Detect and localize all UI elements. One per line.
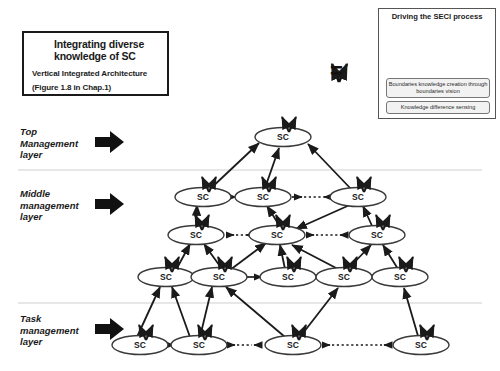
sc-node-label: SC: [287, 340, 299, 350]
edge-n2-1-n1-1: [209, 143, 259, 190]
right-block-arrow-icon-task: [95, 318, 124, 340]
sc-node-label: SC: [197, 192, 209, 202]
equivalence-equals-sign: =: [330, 58, 343, 84]
edge-n2-3-n1-1: [308, 144, 352, 190]
edge-n5-4-n4-5: [404, 288, 418, 336]
sc-node-label: SC: [271, 230, 283, 240]
sc-nodes: [112, 128, 449, 355]
sc-node-label: SC: [134, 340, 146, 350]
legend-subtitle: Vertical Integrated Architecture: [32, 69, 147, 78]
edge-n4-4-n3-3: [348, 245, 371, 269]
layer-label-top: Top Management layer: [20, 126, 78, 161]
sc-node-label: SC: [277, 132, 289, 142]
seci-process-box: Driving the SECI process Boundaries know…: [378, 8, 496, 119]
sc-node-label: SC: [160, 272, 172, 282]
edge-n2-2-n1-1: [265, 148, 279, 188]
edge-n2-3-n3-2: [296, 204, 352, 229]
edge-n4-2-n3-2: [230, 243, 266, 270]
legend-line2: knowledge of SC: [54, 50, 136, 62]
edge-n5-3-n4-2: [226, 287, 285, 337]
seci-box-sensing: Knowledge difference sensing: [386, 101, 490, 114]
right-block-arrow-icon-top: [95, 131, 124, 153]
edge-n3-2-n2-2: [267, 206, 281, 228]
sc-node-label: SC: [190, 230, 202, 240]
sc-node-label: SC: [282, 272, 294, 282]
right-block-arrow-icon-middle: [95, 193, 124, 215]
layer-arrows: [95, 131, 124, 340]
sc-node-label: SC: [415, 340, 427, 350]
edge-n4-4-n3-2: [292, 245, 338, 269]
sc-node-label: SC: [394, 272, 406, 282]
edge-n5-2-n4-1: [172, 287, 190, 337]
seci-title: Driving the SECI process: [379, 12, 495, 21]
sc-node-label: SC: [371, 230, 383, 240]
edge-n4-2-n3-1: [204, 244, 222, 269]
sc-node-label: SC: [352, 192, 364, 202]
sc-node-label: SC: [193, 340, 205, 350]
diagram-canvas: Integrating diverse knowledge of SC Vert…: [0, 0, 500, 371]
sc-node-label: SC: [213, 272, 225, 282]
edge-n5-3-n4-4: [300, 288, 338, 337]
legend-line1: Integrating diverse: [54, 38, 144, 50]
legend-figure-ref: (Figure 1.8 in Chap.1): [32, 83, 111, 92]
legend-box: Integrating diverse knowledge of SC Vert…: [22, 31, 169, 96]
layer-label-task: Task management layer: [20, 313, 79, 348]
seci-box-boundaries: Boundaries knowledge creation through bo…: [386, 78, 490, 98]
edge-n3-3-n2-3: [363, 206, 373, 228]
sc-node-label: SC: [257, 192, 269, 202]
edge-n4-3-n3-2: [280, 245, 285, 269]
layer-label-middle: Middle management layer: [20, 188, 79, 223]
edge-n4-5-n3-3: [383, 245, 398, 269]
sc-node-label: SC: [338, 272, 350, 282]
